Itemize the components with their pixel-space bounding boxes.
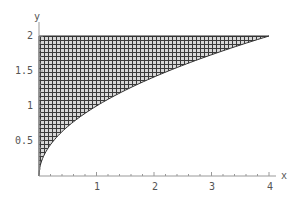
x-tick-label-4: 4: [267, 181, 273, 192]
x-ticks: [51, 172, 270, 176]
y-tick-label-2: 2: [27, 30, 33, 41]
y-tick-label-1: 1: [27, 100, 33, 111]
x-tick-label-1: 1: [94, 181, 100, 192]
hatched-region: [39, 36, 269, 176]
y-tick-label-1.5: 1.5: [15, 65, 33, 76]
y-axis-label: y: [34, 11, 40, 22]
chart: x y 1 2 3 4 0.5 1 1.5 2: [0, 0, 303, 198]
x-axis-label: x: [281, 170, 287, 181]
x-tick-label-2: 2: [152, 181, 158, 192]
y-tick-label-0.5: 0.5: [15, 135, 33, 146]
x-tick-label-3: 3: [209, 181, 215, 192]
